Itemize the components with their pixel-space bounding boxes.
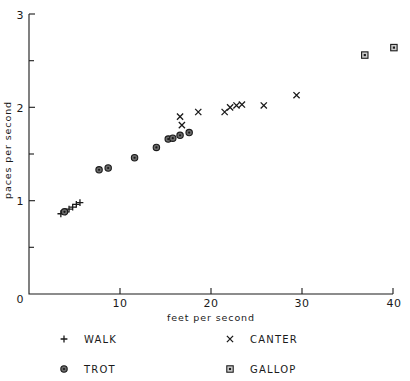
series-gallop bbox=[362, 44, 398, 58]
chart-svg: 3 2 1 0 10 20 30 40 feet per second pace… bbox=[0, 0, 410, 381]
legend: WALK CANTER TROT GALLOP bbox=[61, 334, 298, 375]
legend-label-gallop: GALLOP bbox=[250, 364, 296, 375]
y-axis-title: paces per second bbox=[2, 101, 13, 199]
legend-marker-circle-icon bbox=[61, 366, 67, 372]
series-walk bbox=[57, 199, 83, 217]
data-point-trot bbox=[131, 155, 137, 161]
legend-glyph-cross bbox=[227, 336, 233, 342]
x-tick-label-40: 40 bbox=[386, 297, 401, 310]
data-point-canter bbox=[293, 92, 299, 98]
y-tick-label-2: 2 bbox=[16, 102, 24, 115]
y-tick-label-3: 3 bbox=[16, 9, 24, 22]
legend-glyph-plus bbox=[61, 336, 68, 343]
legend-marker-cross-icon bbox=[227, 336, 233, 342]
legend-marker-plus-icon bbox=[61, 336, 68, 343]
data-point-trot bbox=[186, 129, 192, 135]
legend-item-canter[interactable]: CANTER bbox=[227, 334, 298, 345]
x-tick-labels: 10 20 30 40 bbox=[112, 297, 401, 310]
x-tick-label-10: 10 bbox=[112, 297, 127, 310]
data-point-canter bbox=[177, 114, 183, 120]
axes-group bbox=[29, 14, 393, 294]
data-point-canter bbox=[227, 104, 233, 110]
data-point-trot bbox=[61, 209, 67, 215]
data-point-canter bbox=[179, 122, 185, 128]
data-point-trot bbox=[96, 167, 102, 173]
x-axis-ticks bbox=[120, 288, 393, 294]
y-tick-labels: 3 2 1 0 bbox=[16, 9, 24, 306]
data-point-canter bbox=[195, 109, 201, 115]
legend-label-trot: TROT bbox=[83, 364, 116, 375]
y-axis-ticks bbox=[29, 14, 35, 247]
scatter-plot-figure: 3 2 1 0 10 20 30 40 feet per second pace… bbox=[0, 0, 410, 381]
legend-label-walk: WALK bbox=[84, 334, 117, 345]
data-point-gallop bbox=[391, 44, 397, 50]
legend-item-trot[interactable]: TROT bbox=[61, 364, 116, 375]
data-point-trot bbox=[177, 132, 183, 138]
legend-label-canter: CANTER bbox=[250, 334, 298, 345]
legend-item-walk[interactable]: WALK bbox=[61, 334, 118, 345]
data-point-trot bbox=[153, 144, 159, 150]
x-tick-label-20: 20 bbox=[203, 297, 218, 310]
y-tick-label-0: 0 bbox=[16, 293, 24, 306]
data-points-layer bbox=[57, 44, 397, 217]
legend-glyph-circle bbox=[61, 366, 67, 372]
legend-glyph-square bbox=[227, 366, 233, 372]
data-point-trot bbox=[105, 165, 111, 171]
data-point-canter bbox=[261, 102, 267, 108]
legend-item-gallop[interactable]: GALLOP bbox=[227, 364, 297, 375]
y-tick-label-1: 1 bbox=[16, 195, 24, 208]
x-tick-label-30: 30 bbox=[294, 297, 309, 310]
axis-lines bbox=[29, 14, 393, 294]
series-canter bbox=[177, 92, 300, 128]
data-point-trot bbox=[170, 135, 176, 141]
data-point-canter bbox=[233, 102, 239, 108]
data-point-gallop bbox=[362, 52, 368, 58]
data-point-canter bbox=[239, 101, 245, 107]
x-axis-title: feet per second bbox=[167, 312, 255, 323]
legend-marker-square-icon bbox=[227, 366, 233, 372]
